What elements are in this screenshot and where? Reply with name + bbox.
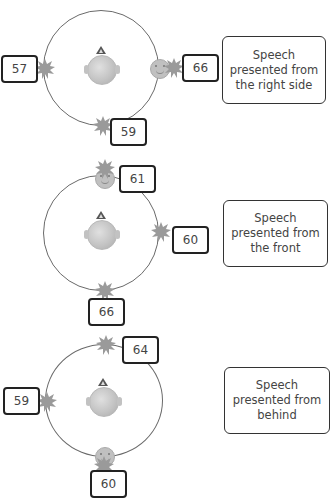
noise-speaker-top-icon [95,159,115,179]
noise-speaker-left-icon [35,59,55,79]
listener-head-icon [89,387,119,417]
noise-speaker-top-icon [96,335,116,355]
listener-head-icon [87,220,117,250]
noise-speaker-right-icon [164,58,184,78]
noise-speaker-left-icon [37,392,57,412]
score-bottom: 66 [88,298,125,326]
score-right: 60 [172,226,209,254]
caption-behind: Speech presented from behind [224,367,330,434]
panel-speech-right: 57 66 59 Speech presented from the right… [0,0,335,160]
panel-speech-front: 61 60 66 Speech presented from the front [0,155,335,335]
caption-front: Speech presented from the front [223,200,328,267]
panel-speech-behind: 64 59 60 Speech presented from behind [0,325,335,492]
caption-right-side: Speech presented from the right side [222,36,326,104]
score-bottom: 59 [110,118,147,146]
score-bottom: 60 [90,470,127,498]
score-right: 66 [182,54,219,82]
noise-speaker-right-icon [151,222,171,242]
score-left: 57 [1,55,38,83]
nose-direction-icon [96,46,106,54]
score-top: 64 [122,336,159,364]
listener-head-icon [87,55,117,85]
score-top: 61 [119,165,156,193]
nose-direction-icon [98,378,108,386]
nose-direction-icon [96,211,106,219]
score-left: 59 [3,387,40,415]
